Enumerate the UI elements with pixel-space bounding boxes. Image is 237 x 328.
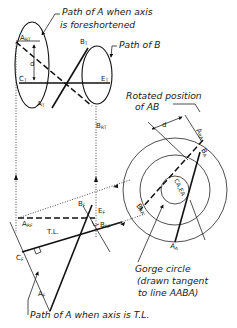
label-d-top: d [30,60,34,68]
path-a-tl-line [10,222,50,312]
caption-rotated-position-1: Rotated position [126,90,202,101]
d-dimension-right [152,117,182,129]
line-art-brt-dashed [16,42,92,106]
projector-diagonal-top [18,180,130,218]
outer-circle-a [123,138,227,242]
caption-path-a-tl: Path of A when axis is T.L. [30,309,149,320]
label-a-rt: ART [20,34,31,42]
label-a-t: AT [37,100,45,108]
label-c-t: CT [19,75,27,83]
path-b-ellipse-top [82,46,112,104]
caption-gorge-1: Gorge circle [135,263,191,274]
projector-b-arrow [94,176,98,182]
label-b-a: BA [199,147,210,159]
extension-line-left [148,122,188,160]
label-b-rf: BRF [100,221,111,229]
label-b-f: BF [78,200,86,208]
caption-path-a-foreshortened-2: is foreshortened [60,19,135,30]
label-a-ra: ARA [194,127,207,141]
caption-path-b: Path of B [119,39,161,50]
caption-gorge-3: to line AABA) [138,287,198,298]
label-a-f: AF [38,290,46,298]
right-angle-brf [92,221,99,226]
label-b-rt: BRT [96,122,107,130]
label-e-t: ET [101,75,108,83]
projector-diagonal-low [110,214,145,226]
label-e-f: EF [98,207,105,215]
label-tl: T.L. [46,228,59,236]
label-a-rf: ARF [22,220,33,228]
label-a-a: AA [170,242,180,251]
caption-gorge-2: (drawn tangent [137,275,208,286]
label-b-t: BT [80,38,88,46]
projector-a-arrow [14,174,18,180]
caption-rotated-position-2: of AB [135,101,159,112]
projector-diag-arrow [113,184,118,188]
arrow-rotated [173,104,200,112]
leader-path-a [42,14,60,35]
rotation-diagram: Path of A when axis is foreshortened Pat… [0,0,237,328]
line-af-bf [50,205,92,311]
caption-path-a-foreshortened-1: Path of A when axis [62,6,153,17]
leader-path-b [111,46,117,57]
line-aa-ba [175,152,200,242]
middle-circle-b [140,155,210,225]
label-c-f: CF [16,254,24,262]
label-d-right: d [162,121,166,129]
